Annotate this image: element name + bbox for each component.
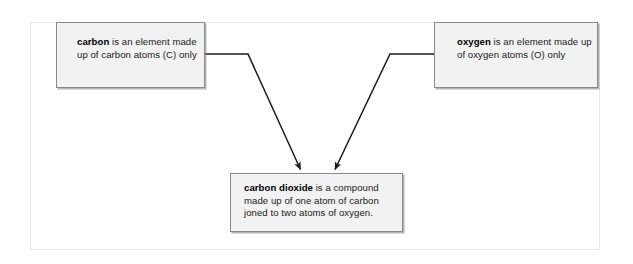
node-text-carbon-dioxide: carbon dioxide is a compound made up of … bbox=[244, 182, 400, 220]
diagram-canvas: carbon is an element made up of carbon a… bbox=[0, 0, 633, 264]
node-box-carbon-dioxide: carbon dioxide is a compound made up of … bbox=[230, 173, 403, 232]
node-box-carbon: carbon is an element made up of carbon a… bbox=[56, 22, 205, 88]
node-box-oxygen: oxygen is an element made up of oxygen a… bbox=[434, 22, 598, 88]
node-term-oxygen: oxygen bbox=[457, 36, 491, 47]
node-text-carbon: carbon is an element made up of carbon a… bbox=[77, 36, 201, 61]
node-term-carbon: carbon bbox=[77, 36, 109, 47]
node-term-carbon-dioxide: carbon dioxide bbox=[244, 182, 313, 193]
node-text-oxygen: oxygen is an element made up of oxygen a… bbox=[457, 36, 593, 61]
